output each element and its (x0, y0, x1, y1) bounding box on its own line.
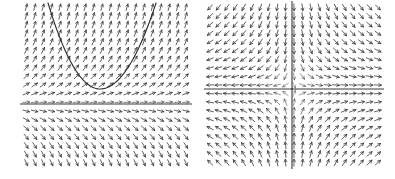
figure-root (0, 0, 395, 179)
direction-field-saddle-point (195, 0, 395, 179)
slope-field-left (23, 4, 189, 166)
direction-field-with-solution-curve (0, 0, 200, 179)
left-plot-canvas (0, 0, 200, 179)
slope-field-right (207, 4, 381, 166)
saddle-point (291, 88, 293, 90)
right-plot-canvas (195, 0, 395, 179)
